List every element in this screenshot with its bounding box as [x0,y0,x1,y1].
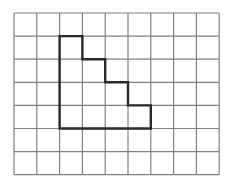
grid-figure [0,0,234,186]
grid-canvas [0,0,234,186]
grid-lines [14,13,219,175]
